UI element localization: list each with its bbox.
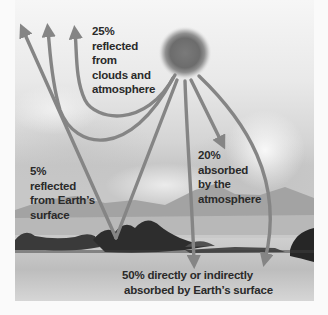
label-line: by the: [198, 177, 261, 192]
label-line: absorbed by Earth’s surface: [122, 283, 273, 298]
label-line: reflected: [92, 39, 155, 54]
label-reflected-clouds: 25% reflected from clouds and atmosphere: [92, 24, 155, 97]
label-reflected-surface: 5% reflected from Earth’s surface: [30, 164, 95, 222]
label-line: 50% directly or indirectly: [122, 268, 273, 283]
label-line: 25%: [92, 24, 155, 39]
label-line: 20%: [198, 148, 261, 163]
sun-icon: [158, 26, 212, 80]
label-absorbed-surface: 50% directly or indirectly absorbed by E…: [122, 268, 273, 297]
label-absorbed-atmosphere: 20% absorbed by the atmosphere: [198, 148, 261, 206]
label-line: from Earth’s: [30, 193, 95, 208]
label-line: absorbed: [198, 163, 261, 178]
label-line: 5%: [30, 164, 95, 179]
label-line: atmosphere: [92, 82, 155, 97]
landscape-photo: [15, 0, 314, 301]
radiation-diagram: 25% reflected from clouds and atmosphere…: [0, 0, 328, 315]
label-line: clouds and: [92, 68, 155, 83]
label-line: reflected: [30, 179, 95, 194]
label-line: atmosphere: [198, 192, 261, 207]
label-line: surface: [30, 208, 95, 223]
label-line: from: [92, 53, 155, 68]
